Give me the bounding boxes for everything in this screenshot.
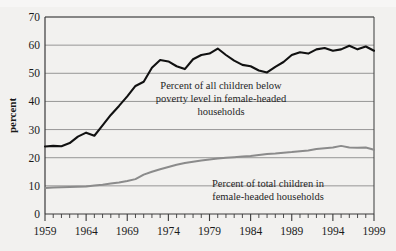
- x-tick-label-1964: 1964: [75, 225, 98, 237]
- upper-series-label-line-2: poverty level in female-headed: [156, 93, 287, 104]
- series-line-lower: [45, 146, 374, 188]
- upper-series-label-line-1: Percent of all children below: [160, 80, 282, 91]
- y-tick-label-50: 50: [29, 67, 41, 79]
- y-tick-label-70: 70: [29, 11, 41, 23]
- upper-series-label-line-3: households: [197, 106, 244, 117]
- y-tick-label-10: 10: [29, 180, 41, 192]
- chart-container: 010203040506070percent195919641969197419…: [0, 0, 396, 251]
- x-tick-label-1999: 1999: [363, 225, 386, 237]
- y-tick-label-20: 20: [29, 152, 41, 164]
- y-tick-label-40: 40: [29, 95, 41, 107]
- line-chart: 010203040506070percent195919641969197419…: [0, 0, 396, 251]
- lower-series-label-line-2: female-headed households: [212, 191, 324, 202]
- y-tick-label-30: 30: [29, 124, 41, 136]
- upper-series-label: Percent of all children belowpoverty lev…: [156, 80, 287, 117]
- x-tick-label-1979: 1979: [198, 225, 221, 237]
- y-axis-title: percent: [6, 98, 18, 134]
- y-tick-label-0: 0: [34, 208, 40, 220]
- lower-series-label-line-1: Percent of total children in: [212, 178, 325, 189]
- x-tick-label-1989: 1989: [280, 225, 303, 237]
- x-tick-label-1984: 1984: [239, 225, 262, 237]
- lower-series-label: Percent of total children infemale-heade…: [212, 178, 325, 202]
- x-tick-label-1959: 1959: [34, 225, 57, 237]
- top-margin-strip: [0, 0, 396, 7]
- y-tick-label-60: 60: [29, 39, 41, 51]
- x-tick-label-1969: 1969: [116, 225, 139, 237]
- x-tick-label-1994: 1994: [321, 225, 344, 237]
- x-tick-label-1974: 1974: [157, 225, 180, 237]
